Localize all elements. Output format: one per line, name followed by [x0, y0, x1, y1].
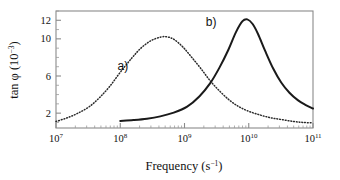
curve-a [56, 37, 313, 123]
curve-annotations: a)b) [118, 15, 217, 74]
annotation-a: a) [118, 59, 129, 73]
x-axis-ticks [56, 123, 313, 128]
x-tick-label: 108 [113, 132, 128, 144]
y-tick-label: 12 [41, 15, 52, 26]
svg-text:tan φ (10−3): tan φ (10−3) [7, 41, 21, 99]
x-tick-label: 1011 [304, 132, 322, 144]
y-tick-label: 2 [46, 108, 51, 119]
x-tick-label: 109 [178, 132, 193, 144]
y-axis-ticks [56, 11, 61, 122]
x-axis-tick-labels: 10710810910101011 [49, 132, 322, 144]
x-tick-label: 1010 [240, 132, 258, 144]
x-tick-label: 107 [49, 132, 64, 144]
frequency-loss-tangent-chart: 10710810910101011 261012 a)b) Frequency … [0, 0, 340, 180]
svg-text:Frequency (s−1): Frequency (s−1) [145, 159, 222, 173]
curve-b [120, 19, 313, 121]
annotation-b: b) [206, 15, 217, 29]
y-axis-tick-labels: 261012 [41, 15, 52, 119]
y-tick-label: 6 [46, 71, 51, 82]
x-axis-label: Frequency (s−1) [145, 159, 222, 173]
y-tick-label: 10 [41, 33, 52, 44]
data-curves [56, 19, 313, 123]
y-axis-label: tan φ (10−3) [7, 41, 21, 99]
chart-figure: 10710810910101011 261012 a)b) Frequency … [0, 0, 340, 180]
